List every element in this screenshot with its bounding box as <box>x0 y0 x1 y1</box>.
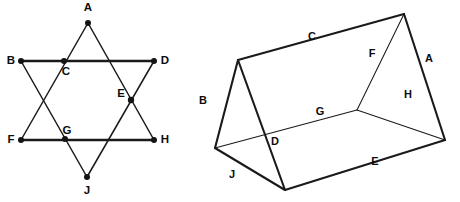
star-label-g: G <box>63 124 72 136</box>
vertex-dot-a <box>85 20 91 26</box>
star-label-d: D <box>161 54 169 66</box>
star-label-c: C <box>62 65 70 77</box>
prism-edge-g-line <box>215 110 357 148</box>
star-label-h: H <box>161 133 169 145</box>
prism-edge-j-line <box>215 148 285 190</box>
prism-label-d: D <box>271 135 279 147</box>
vertex-dot-f <box>18 137 24 143</box>
vertex-dot-g <box>62 136 68 142</box>
star-triangle-up <box>21 23 154 140</box>
prism-label-a: A <box>425 52 433 64</box>
star-label-e: E <box>117 87 125 99</box>
prism-label-g: G <box>316 105 325 117</box>
prism-label-e: E <box>371 155 378 167</box>
star-upward-triangle <box>21 23 154 140</box>
star-label-j: J <box>84 184 90 196</box>
prism-label-b: B <box>199 94 207 106</box>
prism-edge-f-line <box>357 14 404 110</box>
vertex-dot-h <box>151 137 157 143</box>
prism-edge-c-line <box>238 14 404 60</box>
vertex-dot-j <box>84 174 90 180</box>
geometry-figures-canvas: A B C D E F G H J C A F <box>0 0 460 202</box>
star-vertex-dots <box>18 20 157 180</box>
vertex-dot-b <box>18 58 24 64</box>
prism-edge-labels: C A F H B D G J E <box>199 30 433 180</box>
star-downward-triangle <box>21 61 154 177</box>
prism-figure: C A F H B D G J E <box>199 14 445 190</box>
star-vertex-labels: A B C D E F G H J <box>7 1 169 196</box>
prism-edge-h-line <box>357 110 445 140</box>
prism-edge-e-line <box>285 140 445 190</box>
vertex-dot-e <box>128 97 134 103</box>
prism-edge-b-line <box>215 60 238 148</box>
prism-bold-edges <box>215 14 445 190</box>
prism-label-h: H <box>404 88 412 100</box>
star-label-a: A <box>84 1 92 13</box>
vertex-dot-d <box>151 58 157 64</box>
prism-edge-d-line <box>238 60 285 190</box>
star-triangle-down <box>21 61 154 177</box>
prism-label-j: J <box>229 168 235 180</box>
star-label-b: B <box>7 54 15 66</box>
prism-edge-a-line <box>404 14 445 140</box>
star-figure: A B C D E F G H J <box>7 1 169 196</box>
prism-label-c: C <box>308 30 316 42</box>
prism-label-f: F <box>369 47 376 59</box>
vertex-dot-c <box>61 58 67 64</box>
star-label-f: F <box>7 133 14 145</box>
